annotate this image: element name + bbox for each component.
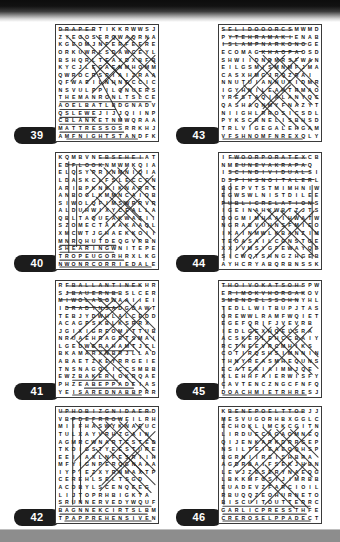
- grid-cell: A: [293, 245, 300, 253]
- grid-cell: J: [240, 469, 247, 477]
- grid-cell: G: [124, 492, 131, 500]
- grid-cell: E: [90, 110, 97, 118]
- grid-cell: N: [273, 79, 280, 87]
- grid-cell: B: [150, 192, 157, 200]
- grid-cell: Z: [267, 381, 274, 389]
- grid-cell: S: [233, 416, 240, 424]
- grid-cell: F: [267, 320, 274, 328]
- grid-cell: G: [104, 408, 111, 416]
- grid-cell: E: [97, 117, 104, 125]
- grid-cell: N: [124, 282, 131, 290]
- grid-cell: N: [273, 222, 280, 230]
- grid-cell: A: [247, 49, 254, 57]
- grid-cell: T: [287, 87, 294, 95]
- grid-cell: B: [307, 461, 314, 469]
- grid-cell: C: [313, 416, 320, 424]
- grid-cell: L: [64, 169, 71, 177]
- grid-cell: S: [130, 507, 137, 515]
- grid-cell: R: [90, 350, 97, 358]
- grid-cell: I: [233, 245, 240, 253]
- grid-cell: H: [267, 328, 274, 336]
- grid-cell: R: [97, 335, 104, 343]
- grid-cell: K: [117, 215, 124, 223]
- grid-cell: B: [313, 476, 320, 484]
- grid-cell: Y: [104, 469, 111, 477]
- grid-cell: K: [273, 162, 280, 170]
- grid-cell: R: [220, 492, 227, 500]
- grid-cell: G: [90, 328, 97, 336]
- grid-cell: G: [64, 328, 71, 336]
- grid-cell: E: [124, 177, 131, 185]
- grid-cell: R: [110, 469, 117, 477]
- grid-row: BAGNNEKCIRTSLBM: [57, 507, 157, 515]
- grid-cell: N: [124, 169, 131, 177]
- grid-cell: B: [150, 56, 157, 64]
- grid-row: LIRDUECAGAOMNEQ: [220, 431, 320, 439]
- grid-cell: [313, 162, 320, 170]
- grid-cell: B: [64, 215, 71, 223]
- grid-cell: R: [253, 117, 260, 125]
- grid-cell: T: [77, 215, 84, 223]
- grid-cell: A: [307, 328, 314, 336]
- grid-cell: I: [240, 26, 247, 34]
- grid-row: TULXAYVRHZGAIN: [57, 431, 157, 439]
- grid-cell: R: [64, 499, 71, 507]
- grid-cell: N: [110, 169, 117, 177]
- grid-cell: E: [150, 245, 157, 253]
- grid-cell: E: [220, 192, 227, 200]
- grid-cell: A: [117, 222, 124, 230]
- grid-row: EGWSWLNISTDILEE: [220, 192, 320, 200]
- grid-row: EUADEVZFARCIOIL: [220, 484, 320, 492]
- grid-cell: E: [130, 484, 137, 492]
- grid-cell: U: [247, 431, 254, 439]
- grid-cell: H: [104, 492, 111, 500]
- grid-cell: E: [137, 87, 144, 95]
- grid-cell: L: [90, 282, 97, 290]
- grid-cell: I: [287, 34, 294, 42]
- grid-cell: X: [77, 328, 84, 336]
- grid-cell: L: [110, 476, 117, 484]
- grid-cell: C: [227, 366, 234, 374]
- grid-cell: I: [77, 461, 84, 469]
- grid-cell: T: [57, 94, 64, 102]
- grid-cell: T: [280, 499, 287, 507]
- grid-cell: S: [280, 507, 287, 515]
- grid-cell: Q: [97, 366, 104, 374]
- grid-row: PYKSCRNELISBHSD: [220, 117, 320, 125]
- grid-cell: A: [130, 215, 137, 223]
- grid-cell: E: [124, 207, 131, 215]
- grid-cell: S: [287, 507, 294, 515]
- grid-cell: T: [253, 253, 260, 261]
- grid-cell: C: [233, 253, 240, 261]
- grid-cell: M: [150, 507, 157, 515]
- grid-cell: W: [84, 110, 91, 118]
- grid-cell: I: [137, 154, 144, 162]
- grid-cell: I: [220, 154, 227, 162]
- grid-cell: Y: [273, 102, 280, 110]
- grid-cell: E: [104, 461, 111, 469]
- grid-cell: R: [293, 388, 300, 396]
- grid-cell: B: [130, 388, 137, 396]
- grid-cell: G: [104, 245, 111, 253]
- grid-row: DSPIHSNOITALERL: [220, 177, 320, 185]
- grid-cell: R: [307, 499, 314, 507]
- grid-cell: B: [117, 290, 124, 298]
- grid-cell: O: [104, 94, 111, 102]
- grid-cell: L: [84, 282, 91, 290]
- grid-cell: B: [64, 117, 71, 125]
- grid-cell: A: [280, 154, 287, 162]
- grid-cell: Q: [247, 492, 254, 500]
- grid-cell: F: [293, 56, 300, 64]
- grid-cell: M: [253, 64, 260, 72]
- grid-cell: Y: [90, 305, 97, 313]
- grid-cell: E: [247, 343, 254, 351]
- grid-cell: K: [90, 184, 97, 192]
- grid-cell: A: [273, 34, 280, 42]
- grid-cell: C: [90, 222, 97, 230]
- puzzle-number-badge: 45: [176, 383, 222, 400]
- grid-cell: M: [287, 350, 294, 358]
- grid-cell: N: [300, 350, 307, 358]
- grid-cell: A: [227, 72, 234, 80]
- grid-cell: Y: [64, 34, 71, 42]
- grid-row: ISCINDIVIDUALSI: [220, 169, 320, 177]
